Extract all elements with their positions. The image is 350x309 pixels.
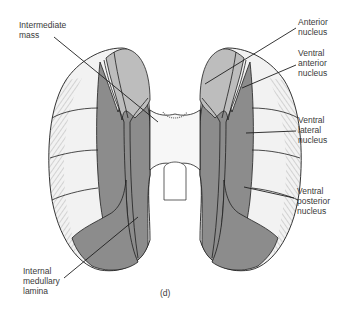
right-thalamus [200, 48, 301, 271]
label-ventral-posterior-nucleus: Ventral posterior nucleus [297, 186, 330, 216]
label-internal-medullary-lamina: Internal medullary lamina [23, 266, 60, 296]
left-thalamus [49, 48, 150, 271]
thalamus-diagram [0, 0, 350, 309]
label-ventral-anterior-nucleus: Ventral anterior nucleus [298, 48, 327, 78]
label-anterior-nucleus: Anterior nucleus [298, 17, 328, 37]
label-intermediate-mass: Intermediate mass [19, 20, 66, 40]
figure-caption: (d) [160, 288, 170, 298]
label-ventral-lateral-nucleus: Ventral lateral nucleus [298, 115, 327, 145]
intermediate-mass-bridge [150, 110, 200, 200]
